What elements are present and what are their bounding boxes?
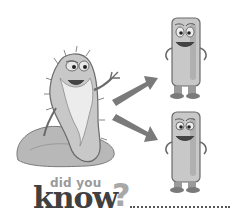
title-line2: know xyxy=(33,180,117,216)
arrow-up-right-icon xyxy=(112,76,158,106)
illustration: did you know ? xyxy=(0,0,233,222)
daughter-bacterium-top-icon xyxy=(166,18,206,99)
question-mark: ? xyxy=(112,176,131,214)
daughter-bacterium-bottom-icon xyxy=(166,112,206,193)
arrow-down-right-icon xyxy=(112,114,158,142)
dotted-rule xyxy=(130,206,230,208)
